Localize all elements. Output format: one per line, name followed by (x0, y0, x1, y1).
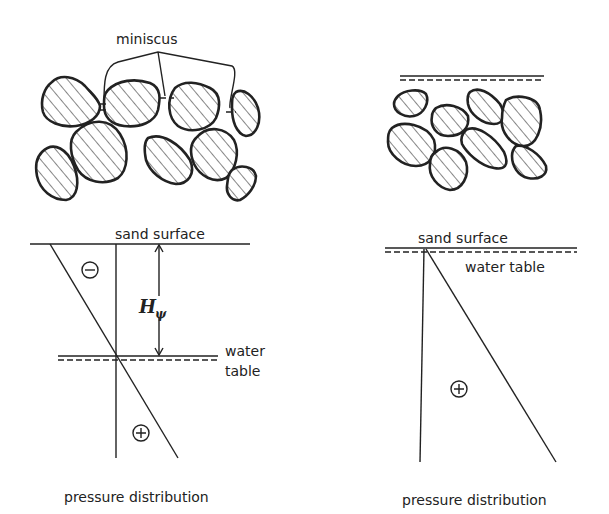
right-reference-axis (420, 249, 424, 462)
left-water-label: water (225, 343, 265, 359)
right-water-table-label: water table (465, 259, 545, 275)
head-subscript: ψ (155, 307, 167, 321)
left-table-label: table (225, 363, 260, 379)
right-pressure-diagram (385, 248, 577, 462)
diagram-svg: miniscus sand surface H ψ water table pr… (0, 0, 609, 514)
right-water-surface (400, 76, 544, 80)
right-caption: pressure distribution (402, 492, 547, 508)
diagram-canvas: miniscus sand surface H ψ water table pr… (0, 0, 609, 514)
left-soil-grains (36, 77, 259, 200)
meniscus-label: miniscus (116, 31, 177, 47)
left-pressure-diagram (30, 244, 250, 458)
right-soil-grains (388, 90, 546, 190)
left-sand-surface-label: sand surface (115, 226, 205, 242)
left-caption: pressure distribution (64, 489, 209, 505)
right-pressure-line (426, 249, 556, 462)
right-sand-surface-label: sand surface (418, 230, 508, 246)
